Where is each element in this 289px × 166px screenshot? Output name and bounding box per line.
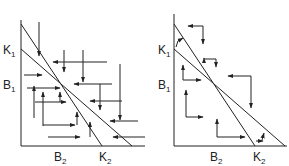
label-k2: K2 <box>99 150 112 166</box>
label-b2: B2 <box>54 150 67 166</box>
left-panel <box>21 20 145 146</box>
isocline-b <box>174 49 285 146</box>
left-panel-labels: K1 B1 B2 K2 <box>3 43 112 166</box>
flow-arrows <box>176 26 264 141</box>
label-k2: K2 <box>253 150 266 166</box>
isocline-b <box>21 49 132 146</box>
label-b1: B1 <box>158 78 171 94</box>
label-k1: K1 <box>158 43 171 59</box>
label-b1: B1 <box>3 78 16 94</box>
right-panel <box>174 14 287 146</box>
label-k1: K1 <box>3 43 16 59</box>
label-b2: B2 <box>210 150 223 166</box>
isocline-diagram: K1 B1 B2 K2 <box>0 0 289 166</box>
